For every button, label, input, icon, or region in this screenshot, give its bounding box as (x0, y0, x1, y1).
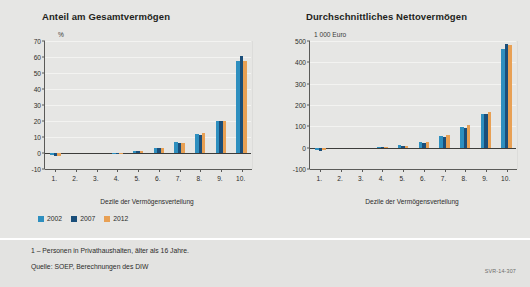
bar (446, 135, 449, 147)
bar (488, 112, 491, 147)
legend-swatch-icon (104, 216, 110, 222)
legend-item: 2002 (38, 216, 62, 223)
x-axis-tick-label: 2. (337, 175, 343, 182)
y-axis-tick-mark (307, 83, 310, 84)
x-axis-tick-label: 2. (72, 175, 78, 182)
x-axis-tick-label: 7. (441, 175, 447, 182)
legend-swatch-icon (38, 216, 44, 222)
x-axis-line (310, 169, 517, 170)
legend-label: 2002 (47, 216, 62, 223)
plot-right-edge (517, 41, 518, 169)
chart-legend: 200220072012 (38, 216, 128, 223)
x-axis-tick-label: 8. (197, 175, 203, 182)
y-axis-tick-mark (42, 89, 45, 90)
gridline (310, 105, 516, 106)
chart-title-right: Durchschnittliches Nettovermögen (306, 11, 467, 22)
bar (322, 148, 325, 151)
x-axis-tick-label: 4. (114, 175, 120, 182)
figure-signature: SVR-14-307 (485, 268, 516, 274)
y-axis-tick-mark (307, 62, 310, 63)
chart-title-left: Anteil am Gesamtvermögen (42, 11, 170, 22)
gridline (310, 41, 516, 42)
plot-area-left: -10010203040506070 (44, 41, 251, 169)
x-axis-title-right: Dezile der Vermögensverteilung (365, 198, 458, 205)
x-axis-tick-label: 9. (482, 175, 488, 182)
x-axis-tick-label: 10. (501, 175, 510, 182)
charts-container: Anteil am Gesamtvermögen % -100102030405… (0, 0, 530, 236)
bar (57, 153, 60, 156)
bar (181, 143, 184, 153)
y-axis-tick-mark (42, 73, 45, 74)
legend-label: 2007 (80, 216, 95, 223)
x-axis-tick-label: 9. (217, 175, 223, 182)
legend-swatch-icon (71, 216, 77, 222)
y-axis-tick-mark (42, 57, 45, 58)
x-axis-tick-label: 1. (52, 175, 58, 182)
y-axis-tick-mark (42, 137, 45, 138)
y-axis-tick-mark (307, 147, 310, 148)
x-axis-tick-label: 8. (462, 175, 468, 182)
y-axis-tick-mark (42, 41, 45, 42)
x-axis-tick-label: 6. (420, 175, 426, 182)
y-axis-tick-mark (42, 105, 45, 106)
x-axis-tick-label: 10. (236, 175, 245, 182)
x-axis-tick-label: 5. (134, 175, 140, 182)
plot-right-edge (252, 41, 253, 169)
bar (161, 148, 164, 153)
bar (119, 153, 122, 154)
x-axis-tick-label: 3. (358, 175, 364, 182)
chart-panel-anteil: Anteil am Gesamtvermögen % -100102030405… (0, 0, 265, 236)
x-axis-tick-label: 1. (317, 175, 323, 182)
gridline (45, 57, 251, 58)
gridline (45, 73, 251, 74)
gridline (310, 84, 516, 85)
x-axis-tick-label: 4. (379, 175, 385, 182)
y-unit-label-right: 1 000 Euro (314, 31, 346, 38)
bar (223, 121, 226, 153)
bar (467, 125, 470, 147)
bar (243, 61, 246, 153)
gridline (310, 62, 516, 63)
legend-label: 2012 (113, 216, 128, 223)
bar (426, 142, 429, 148)
gridline (45, 41, 251, 42)
x-axis-tick-label: 5. (399, 175, 405, 182)
chart-panel-nettovermoegen: Durchschnittliches Nettovermögen 1 000 E… (265, 0, 530, 236)
y-axis-tick-mark (42, 121, 45, 122)
y-axis-tick-mark (307, 41, 310, 42)
x-axis-tick-label: 7. (176, 175, 182, 182)
zero-axis-line (310, 148, 516, 149)
x-axis-tick-label: 3. (93, 175, 99, 182)
bar (384, 147, 387, 148)
bar (405, 146, 408, 148)
y-axis-tick-mark (42, 153, 45, 154)
legend-item: 2007 (71, 216, 95, 223)
plot-area-right: -1000100200300400500 (309, 41, 516, 169)
x-axis-tick-label: 6. (155, 175, 161, 182)
legend-item: 2012 (104, 216, 128, 223)
y-axis-tick-mark (307, 126, 310, 127)
y-unit-label-left: % (58, 31, 64, 38)
y-axis-tick-mark (307, 105, 310, 106)
zero-axis-line (45, 153, 251, 154)
gridline (45, 105, 251, 106)
bar (508, 45, 511, 148)
gridline (45, 89, 251, 90)
bar (140, 151, 143, 153)
bar (202, 133, 205, 153)
figure-root: Anteil am Gesamtvermögen % -100102030405… (0, 0, 530, 287)
footnote-1: 1 – Personen in Privathaushalten, älter … (31, 247, 189, 254)
x-axis-title-left: Dezile der Vermögensverteilung (100, 198, 193, 205)
x-axis-line (45, 169, 252, 170)
footnote-source: Quelle: SOEP, Berechnungen des DIW (31, 263, 148, 270)
